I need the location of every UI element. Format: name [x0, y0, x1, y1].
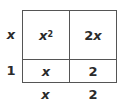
cell-x-squared-exponent: 2: [47, 30, 53, 39]
cell-2-value: 2: [88, 64, 97, 79]
column-label-x: x: [22, 84, 69, 104]
cell-2x-var: x: [93, 28, 101, 43]
row-label-x: x: [2, 10, 20, 58]
column-label-2: 2: [69, 84, 117, 104]
row-label-1: 1: [2, 58, 20, 83]
cell-2x: 2x: [70, 11, 116, 59]
cell-2x-coef: 2: [84, 28, 93, 43]
cell-x-squared: x2: [23, 11, 69, 59]
cell-x: x: [23, 60, 69, 82]
cell-2: 2: [70, 60, 116, 82]
area-model-diagram: x 1 x2 2x x 2 x 2: [0, 0, 121, 108]
cell-x-var: x: [42, 64, 50, 79]
cell-x-squared-base: x: [39, 28, 47, 43]
area-grid: x2 2x x 2: [22, 10, 117, 83]
